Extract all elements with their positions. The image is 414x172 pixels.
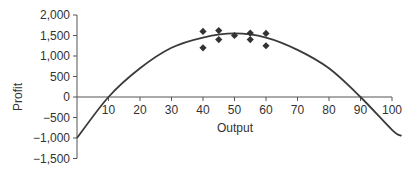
diamond-marker bbox=[262, 30, 269, 37]
data-points bbox=[199, 27, 269, 51]
x-axis-label: Output bbox=[217, 121, 254, 135]
x-tick-label: 80 bbox=[322, 103, 336, 117]
y-tick-label: 0 bbox=[63, 90, 70, 104]
diamond-marker bbox=[199, 28, 206, 35]
x-tick-label: 50 bbox=[228, 103, 242, 117]
x-tick-label: 70 bbox=[291, 103, 305, 117]
x-tick-label: 10 bbox=[102, 103, 116, 117]
profit-output-chart: 2,0001,5001,0005000−500−1,000−1,50010203… bbox=[0, 0, 414, 172]
x-tick-label: 40 bbox=[196, 103, 210, 117]
x-tick-label: 30 bbox=[165, 103, 179, 117]
diamond-marker bbox=[215, 27, 222, 34]
diamond-marker bbox=[215, 36, 222, 43]
diamond-marker bbox=[262, 42, 269, 49]
y-tick-label: 2,000 bbox=[40, 8, 70, 22]
y-tick-label: −500 bbox=[43, 111, 70, 125]
y-tick-label: 500 bbox=[50, 70, 70, 84]
x-tick-label: 100 bbox=[382, 103, 402, 117]
y-tick-label: −1,500 bbox=[33, 152, 70, 166]
x-tick-label: 20 bbox=[133, 103, 147, 117]
x-tick-label: 60 bbox=[259, 103, 273, 117]
x-tick-label: 90 bbox=[354, 103, 368, 117]
chart-canvas: 2,0001,5001,0005000−500−1,000−1,50010203… bbox=[0, 0, 414, 172]
y-axis-label: Profit bbox=[11, 82, 25, 111]
diamond-marker bbox=[199, 44, 206, 51]
diamond-marker bbox=[247, 36, 254, 43]
y-tick-label: 1,500 bbox=[40, 29, 70, 43]
y-tick-label: 1,000 bbox=[40, 49, 70, 63]
y-tick-label: −1,000 bbox=[33, 131, 70, 145]
